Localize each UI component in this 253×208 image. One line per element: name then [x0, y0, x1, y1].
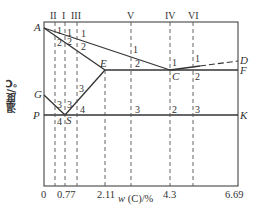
liquidus-CD-extension [200, 61, 238, 66]
roman-III: III [71, 10, 81, 21]
plot-frame [44, 22, 238, 186]
roman-V: V [127, 10, 135, 21]
point-C: C [172, 70, 180, 82]
region-VI-1: 1 [195, 53, 200, 64]
point-S: S [66, 114, 72, 126]
region-V-3: 3 [135, 104, 140, 115]
region-II-3: 3 [57, 99, 62, 110]
region-III-2: 2 [81, 41, 86, 52]
region-II-2: 2 [57, 37, 62, 48]
point-P: P [32, 109, 40, 121]
region-V-1: 1 [133, 44, 138, 55]
point-F: F [239, 64, 247, 76]
y-axis-label: 温度/℃ [4, 78, 20, 113]
region-III-4: 4 [80, 104, 85, 115]
region-VI-2: 2 [195, 71, 200, 82]
region-IV-2: 2 [172, 104, 177, 115]
x-axis-label: w (C)/% [118, 193, 153, 204]
region-II-1: 1 [57, 25, 62, 36]
point-A: A [33, 21, 41, 33]
point-K: K [239, 109, 248, 121]
region-VI-3: 3 [195, 104, 200, 115]
x-tick-0.77: 0.77 [57, 189, 75, 200]
liquidus-AC [44, 28, 170, 70]
roman-IV: IV [165, 10, 176, 21]
region-III-3: 3 [79, 83, 84, 94]
roman-I: I [62, 10, 65, 21]
region-II-4: 4 [57, 116, 62, 127]
point-E: E [99, 57, 107, 69]
x-tick-6.69: 6.69 [225, 189, 243, 200]
region-I-3: 3 [67, 99, 72, 110]
region-IV-1: 1 [172, 57, 177, 68]
x-tick-2.11: 2.11 [97, 189, 115, 200]
solidus-AE [44, 28, 105, 70]
x-tick-0: 0 [41, 189, 46, 200]
region-I-2: 2 [67, 36, 72, 47]
x-tick-4.3: 4.3 [163, 189, 176, 200]
phase-diagram: II I III V IV VI A D E C F G S P K 1 2 3… [0, 0, 253, 208]
roman-VI: VI [188, 10, 199, 21]
x-axis-unit: (C)/% [128, 193, 154, 204]
phase-lines [44, 28, 238, 115]
roman-II: II [50, 10, 57, 21]
point-G: G [34, 88, 42, 100]
region-III-1: 1 [81, 28, 86, 39]
x-axis-var: w [118, 193, 125, 204]
region-V-2: 2 [135, 58, 140, 69]
